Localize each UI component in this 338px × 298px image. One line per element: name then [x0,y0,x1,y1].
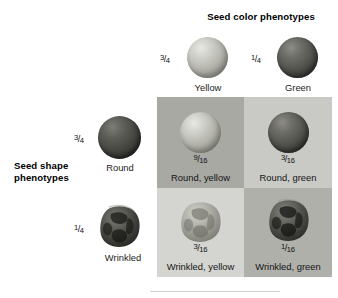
column-fraction-yellow-denominator: 4 [166,56,170,65]
quadrant-fraction-round-yellow: 9/16 [157,148,244,166]
quadrant-fraction-wrinkled-green-denominator: 16 [287,245,295,254]
quadrant-round-yellow: 9/16 Round, yellow [157,97,244,188]
quadrant-fraction-wrinkled-yellow-denominator: 16 [199,245,207,254]
quadrant-fraction-round-green-denominator: 16 [287,156,295,165]
quadrant-label-round-yellow: Round, yellow [157,172,244,183]
row-fraction-round: 3/4 [66,128,92,146]
row-fraction-wrinkled: 1/4 [66,218,92,236]
quadrant-label-wrinkled-green: Wrinkled, green [244,261,332,272]
quadrant-wrinkled-yellow: 3/16 Wrinkled, yellow [157,188,244,277]
column-fraction-green-denominator: 4 [257,56,261,65]
quadrant-label-round-green: Round, green [244,172,332,183]
seed-icon-round-yellow-parent [187,37,228,78]
quadrant-fraction-wrinkled-yellow: 3/16 [157,237,244,255]
bottom-rule [150,291,280,292]
quadrant-fraction-round-yellow-denominator: 16 [199,156,207,165]
seed-icon-round-green [268,112,309,153]
quadrant-fraction-wrinkled-green: 1/16 [244,237,332,255]
seed-icon-round-parent [98,116,141,159]
seed-shape-phenotypes-title: Seed shape phenotypes [14,160,96,183]
column-label-yellow: Yellow [177,82,239,93]
column-fraction-yellow: 3/4 [152,48,178,66]
punnett-grid: 9/16 Round, yellow 3/16 Round, green [157,97,332,277]
row-fraction-wrinkled-denominator: 4 [80,226,84,235]
seed-icon-wrinkled-parent [97,203,143,249]
seed-shape-phenotypes-title-line1: Seed shape [14,160,96,172]
column-fraction-green: 1/4 [243,48,269,66]
seed-color-phenotypes-title: Seed color phenotypes [186,11,336,23]
row-label-round: Round [89,162,151,173]
seed-icon-round-yellow [180,112,221,153]
column-label-green: Green [267,82,329,93]
quadrant-label-wrinkled-yellow: Wrinkled, yellow [157,261,244,272]
quadrant-round-green: 3/16 Round, green [244,97,332,188]
quadrant-wrinkled-green: 1/16 Wrinkled, green [244,188,332,277]
quadrant-fraction-round-green: 3/16 [244,148,332,166]
row-fraction-round-denominator: 4 [80,136,84,145]
seed-icon-round-green-parent [277,37,318,78]
seed-shape-phenotypes-title-line2: phenotypes [14,172,96,184]
row-label-wrinkled: Wrinkled [88,252,158,263]
